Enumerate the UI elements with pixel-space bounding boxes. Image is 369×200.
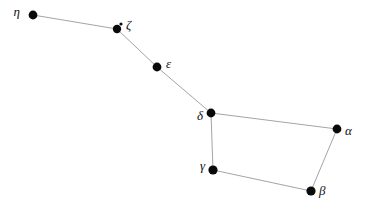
star-labels: ηζεδαγβ bbox=[14, 4, 353, 198]
star-point-η bbox=[29, 11, 38, 20]
star-link-β-γ bbox=[213, 170, 311, 191]
star-link-α-β bbox=[311, 129, 337, 191]
star-point-β bbox=[306, 186, 315, 195]
star-point-ζ bbox=[113, 25, 121, 33]
star-label-γ: γ bbox=[200, 158, 206, 173]
star-link-lines bbox=[33, 15, 337, 191]
star-label-ζ: ζ bbox=[126, 17, 132, 32]
companion-star-point-0 bbox=[119, 22, 122, 25]
constellation-canvas: ηζεδαγβ bbox=[0, 0, 369, 200]
star-point-δ bbox=[207, 109, 216, 118]
star-link-η-ζ bbox=[33, 15, 117, 29]
star-point-ε bbox=[153, 63, 162, 72]
star-link-ε-δ bbox=[157, 67, 211, 113]
star-points bbox=[29, 11, 342, 196]
star-point-γ bbox=[208, 165, 217, 174]
star-label-β: β bbox=[318, 183, 326, 198]
star-link-ζ-ε bbox=[117, 29, 157, 67]
star-label-η: η bbox=[14, 4, 20, 19]
star-link-γ-δ bbox=[211, 113, 213, 170]
constellation-diagram: ηζεδαγβ bbox=[0, 0, 369, 200]
star-link-δ-α bbox=[211, 113, 337, 129]
star-label-α: α bbox=[345, 123, 353, 138]
star-point-α bbox=[333, 125, 342, 134]
star-label-ε: ε bbox=[166, 56, 172, 71]
star-label-δ: δ bbox=[197, 108, 204, 123]
